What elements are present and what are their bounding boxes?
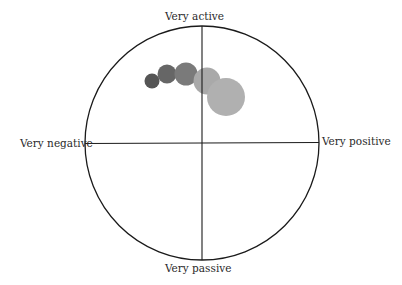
label-very-positive: Very positive: [322, 136, 391, 147]
label-very-negative: Very negative: [20, 138, 93, 149]
trajectory-bubbles-overlay: [207, 78, 245, 116]
label-very-passive: Very passive: [165, 263, 231, 274]
label-very-active: Very active: [165, 11, 224, 22]
bubble-2: [158, 65, 177, 84]
bubble-1: [145, 74, 160, 89]
bubble-5: [207, 78, 245, 116]
